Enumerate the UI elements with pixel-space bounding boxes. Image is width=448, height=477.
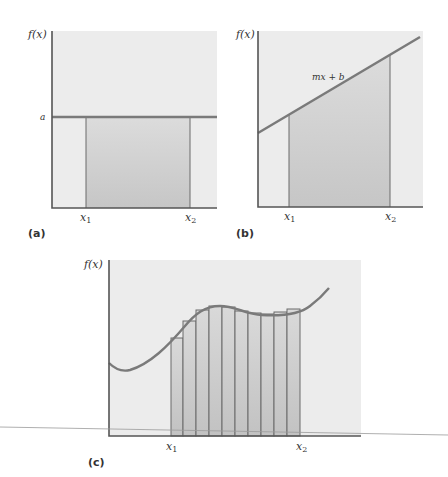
riemann-bar [235, 311, 248, 436]
panel-c-label: (c) [88, 456, 105, 469]
panel-b-y-label: f(x) [235, 28, 255, 41]
riemann-bar [209, 306, 222, 436]
panel-b-line-label: mx + b [312, 72, 345, 82]
panel-b-x1-label: x1 [284, 210, 295, 224]
panel-a-x1-label: x1 [80, 211, 91, 225]
panel-b-x2-label: x2 [385, 210, 396, 224]
riemann-bar [274, 312, 287, 436]
panel-c-x2-label: x2 [296, 440, 307, 454]
panel-c-y-label: f(x) [83, 258, 103, 271]
riemann-bar [287, 309, 300, 436]
riemann-bar [248, 313, 261, 436]
panel-a-y-label: f(x) [27, 28, 47, 41]
integral-diagrams: f(x) a x1 x2 (a) f(x) mx + b x1 x2 (b) [0, 0, 448, 477]
riemann-bar [183, 321, 196, 436]
riemann-bar [196, 310, 209, 436]
panel-c-x1-label: x1 [166, 440, 177, 454]
panel-a-label: (a) [28, 227, 45, 240]
panel-a-level-label: a [40, 112, 45, 122]
panel-c-riemann-bars [171, 306, 300, 436]
panel-b: f(x) mx + b x1 x2 (b) [235, 28, 423, 240]
panel-b-label: (b) [236, 227, 254, 240]
riemann-bar [171, 338, 183, 436]
panel-c: f(x) x1 x2 (c) [83, 258, 361, 469]
riemann-bar [222, 307, 235, 436]
riemann-bar [261, 314, 274, 436]
panel-a-shaded-area [86, 117, 190, 208]
panel-a-x2-label: x2 [185, 211, 196, 225]
panel-a: f(x) a x1 x2 (a) [27, 28, 217, 240]
